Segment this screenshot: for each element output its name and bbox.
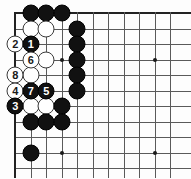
grid-line-vertical-9 xyxy=(139,12,140,178)
grid-line-horizontal-11 xyxy=(15,168,191,169)
white-stone-2-5 xyxy=(22,67,39,84)
black-stone-5-2 xyxy=(69,20,86,37)
black-stone-2-8 xyxy=(22,113,39,130)
star-point-10-10 xyxy=(153,151,157,155)
white-stone-2-7 xyxy=(22,98,39,115)
black-stone-2-1 xyxy=(22,5,39,22)
star-point-4-10 xyxy=(60,151,64,155)
black-stone-4-1 xyxy=(53,5,70,22)
black-stone-5-3 xyxy=(69,36,86,53)
numbered-black-stone-3-6: 5 xyxy=(38,82,55,99)
stone-move-number: 6 xyxy=(28,54,34,65)
black-stone-5-4 xyxy=(69,51,86,68)
white-stone-3-2 xyxy=(38,20,55,37)
grid-line-vertical-8 xyxy=(124,12,125,178)
stone-move-number: 3 xyxy=(12,101,18,112)
stone-move-number: 4 xyxy=(12,85,18,96)
black-stone-5-6 xyxy=(69,82,86,99)
numbered-white-stone-1-6: 4 xyxy=(7,82,24,99)
stone-move-number: 7 xyxy=(28,85,34,96)
black-stone-3-8 xyxy=(38,113,55,130)
black-stone-2-10 xyxy=(22,144,39,161)
white-stone-3-7 xyxy=(38,98,55,115)
black-stone-5-5 xyxy=(69,67,86,84)
stone-move-number: 1 xyxy=(28,39,34,50)
numbered-white-stone-1-5: 8 xyxy=(7,67,24,84)
grid-line-vertical-6 xyxy=(93,12,94,178)
numbered-black-stone-2-6: 7 xyxy=(22,82,39,99)
grid-line-horizontal-3 xyxy=(15,44,191,45)
numbered-white-stone-2-4: 6 xyxy=(22,51,39,68)
white-stone-2-2 xyxy=(22,20,39,37)
grid-line-horizontal-9 xyxy=(15,137,191,138)
grid-line-vertical-11 xyxy=(170,12,171,178)
black-stone-4-8 xyxy=(53,113,70,130)
star-point-10-4 xyxy=(153,58,157,62)
stone-move-number: 2 xyxy=(12,39,18,50)
stone-move-number: 8 xyxy=(12,70,18,81)
grid-line-vertical-7 xyxy=(108,12,109,178)
stone-move-number: 5 xyxy=(43,85,49,96)
numbered-black-stone-1-7: 3 xyxy=(7,98,24,115)
white-stone-3-4 xyxy=(38,51,55,68)
grid-line-horizontal-5 xyxy=(15,75,191,76)
black-stone-3-1 xyxy=(38,5,55,22)
numbered-black-stone-2-3: 1 xyxy=(22,36,39,53)
grid-line-horizontal-10 xyxy=(15,153,191,154)
numbered-white-stone-1-3: 2 xyxy=(7,36,24,53)
black-stone-4-7 xyxy=(53,98,70,115)
star-point-4-4 xyxy=(60,58,64,62)
go-board-diagram: 21684753 xyxy=(0,0,191,179)
